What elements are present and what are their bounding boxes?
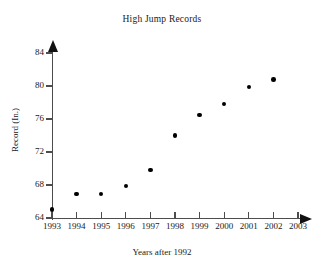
y-axis-line [52,50,53,220]
data-point [50,207,55,212]
y-axis-tick [46,85,52,86]
x-axis-tick [224,212,225,218]
data-point [247,85,252,90]
x-axis-tick [199,212,200,218]
y-axis-tick [46,184,52,185]
y-axis-label: Record (In.) [10,80,20,180]
y-axis-tick-label: 76 [20,113,44,123]
x-axis-tick [297,212,298,218]
x-axis-label: Years after 1992 [0,247,324,257]
data-point [148,168,153,173]
data-point [124,184,129,189]
x-axis-tick [101,212,102,218]
data-point [271,77,276,82]
x-axis-tick-label: 2003 [283,221,313,231]
plot-area: 646872768084 199319941995199619971998199… [0,0,324,269]
y-axis-tick [46,151,52,152]
x-axis-tick [174,212,175,218]
y-axis-tick-label: 68 [20,179,44,189]
data-point [99,192,104,197]
high-jump-records-chart: High Jump Records 646872768084 199319941… [0,0,324,269]
y-axis-tick-label: 72 [20,146,44,156]
data-point [74,192,79,197]
x-axis-tick [51,212,52,218]
x-axis-tick [248,212,249,218]
y-axis-tick [46,118,52,119]
x-axis-tick [150,212,151,218]
data-point [222,102,227,107]
x-axis-tick [76,212,77,218]
data-point [197,113,202,118]
y-axis-arrow-icon [48,40,58,52]
y-axis-tick-label: 84 [20,47,44,57]
y-axis-tick-label: 80 [20,80,44,90]
x-axis-tick [273,212,274,218]
x-axis-tick [125,212,126,218]
y-axis-tick [46,52,52,53]
x-axis-line [52,218,302,219]
data-point [173,133,178,138]
